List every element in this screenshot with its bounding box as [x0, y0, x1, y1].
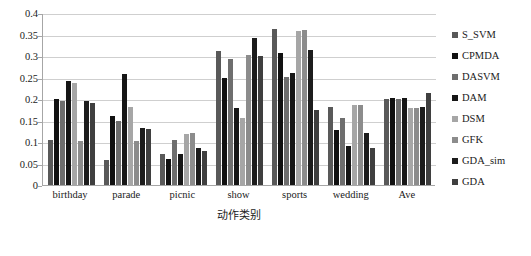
bar-cpmda-picnic	[166, 159, 171, 185]
y-axis-tick-label: 0.15	[20, 117, 38, 127]
legend-label: CPMDA	[462, 51, 499, 61]
bar-gda_sim-wedding	[364, 133, 369, 185]
bar-dsm-ave	[408, 108, 413, 185]
y-axis: 00.050.10.150.20.250.30.350.4	[0, 0, 38, 256]
bar-gda-picnic	[202, 151, 207, 185]
bar-gfk-ave	[414, 108, 419, 185]
bar-s_svm-birthday	[48, 140, 53, 185]
legend-label: DASVM	[462, 72, 500, 82]
bar-chart: 00.050.10.150.20.250.30.350.4 birthdaypa…	[0, 0, 531, 256]
bar-gfk-birthday	[78, 141, 83, 185]
bar-dasvm-sports	[284, 77, 289, 185]
legend-swatch-icon	[452, 53, 458, 59]
y-axis-tick-label: 0.35	[20, 31, 38, 41]
legend-item-dsm[interactable]: DSM	[452, 108, 531, 129]
bar-gda_sim-ave	[420, 107, 425, 185]
bar-group-sports	[268, 13, 324, 185]
x-axis-label-parade: parade	[98, 189, 154, 200]
bar-group-wedding	[324, 13, 380, 185]
x-axis-title: 动作类别	[42, 206, 435, 222]
x-axis-label-sports: sports	[267, 189, 323, 200]
y-axis-tick-label: 0.3	[25, 52, 38, 62]
bar-group-picnic	[155, 13, 211, 185]
bar-gda_sim-sports	[308, 50, 313, 185]
legend-item-dam[interactable]: DAM	[452, 87, 531, 108]
bar-gfk-wedding	[358, 105, 363, 185]
legend-label: GDA_sim	[462, 156, 505, 166]
bar-gda_sim-birthday	[84, 101, 89, 185]
bar-gda-show	[258, 56, 263, 185]
legend-item-gda_sim[interactable]: GDA_sim	[452, 150, 531, 171]
bar-dasvm-parade	[116, 121, 121, 185]
bar-dasvm-ave	[396, 99, 401, 185]
bar-dsm-sports	[296, 31, 301, 185]
bar-s_svm-sports	[272, 29, 277, 185]
bar-dsm-wedding	[352, 105, 357, 185]
bar-group-ave	[380, 13, 436, 185]
legend-item-gda[interactable]: GDA	[452, 171, 531, 192]
y-axis-tick-label: 0.2	[25, 95, 38, 105]
legend-swatch-icon	[452, 32, 458, 38]
legend-item-gfk[interactable]: GFK	[452, 129, 531, 150]
legend-swatch-icon	[452, 179, 458, 185]
legend: S_SVMCPMDADASVMDAMDSMGFKGDA_simGDA	[452, 24, 531, 192]
bar-s_svm-ave	[384, 99, 389, 185]
legend-item-dasvm[interactable]: DASVM	[452, 66, 531, 87]
x-axis-label-wedding: wedding	[323, 189, 379, 200]
bar-cpmda-wedding	[334, 130, 339, 185]
bar-gda-birthday	[90, 103, 95, 185]
bar-dsm-show	[240, 118, 245, 185]
bar-cpmda-birthday	[54, 99, 59, 185]
bar-dsm-parade	[128, 107, 133, 185]
bar-s_svm-show	[216, 51, 221, 185]
y-axis-tick-label: 0.05	[20, 160, 38, 170]
x-axis-label-show: show	[210, 189, 266, 200]
legend-item-cpmda[interactable]: CPMDA	[452, 45, 531, 66]
x-axis-label-birthday: birthday	[42, 189, 98, 200]
bar-group-birthday	[43, 13, 99, 185]
legend-swatch-icon	[452, 95, 458, 101]
bar-dam-wedding	[346, 146, 351, 185]
legend-label: GDA	[462, 177, 485, 187]
bar-gda_sim-show	[252, 38, 257, 185]
bar-gda_sim-picnic	[196, 148, 201, 185]
bar-cpmda-show	[222, 78, 227, 186]
x-axis-label-picnic: picnic	[154, 189, 210, 200]
bar-gda_sim-parade	[140, 128, 145, 185]
bar-gfk-show	[246, 55, 251, 185]
y-axis-tick-mark	[38, 186, 42, 187]
bar-groups	[43, 13, 436, 185]
bar-cpmda-ave	[390, 98, 395, 185]
y-axis-tick-label: 0.4	[25, 9, 38, 19]
bar-cpmda-parade	[110, 116, 115, 185]
bar-cpmda-sports	[278, 53, 283, 185]
x-axis-label-ave: Ave	[379, 189, 435, 200]
bar-gda-wedding	[370, 148, 375, 185]
bar-s_svm-parade	[104, 160, 109, 185]
bar-gfk-picnic	[190, 133, 195, 185]
legend-label: GFK	[462, 135, 483, 145]
legend-swatch-icon	[452, 116, 458, 122]
legend-swatch-icon	[452, 137, 458, 143]
bar-gda-ave	[426, 93, 431, 185]
legend-swatch-icon	[452, 74, 458, 80]
y-axis-tick-label: 0.25	[20, 74, 38, 84]
y-axis-tick-label: 0.1	[25, 138, 38, 148]
legend-label: DSM	[462, 114, 485, 124]
legend-swatch-icon	[452, 158, 458, 164]
bar-dam-parade	[122, 74, 127, 185]
bar-s_svm-wedding	[328, 107, 333, 185]
bar-group-parade	[99, 13, 155, 185]
bar-gfk-sports	[302, 30, 307, 185]
bar-dam-picnic	[178, 154, 183, 185]
legend-item-s_svm[interactable]: S_SVM	[452, 24, 531, 45]
bar-gfk-parade	[134, 141, 139, 185]
bar-dam-birthday	[66, 81, 71, 185]
bar-dam-show	[234, 108, 239, 185]
bar-dsm-picnic	[184, 134, 189, 185]
bar-dam-ave	[402, 98, 407, 185]
bar-dasvm-show	[228, 59, 233, 185]
bar-dsm-birthday	[72, 83, 77, 185]
legend-label: S_SVM	[462, 30, 496, 40]
x-axis-tick-labels: birthdayparadepicnicshowsportsweddingAve	[42, 189, 435, 200]
